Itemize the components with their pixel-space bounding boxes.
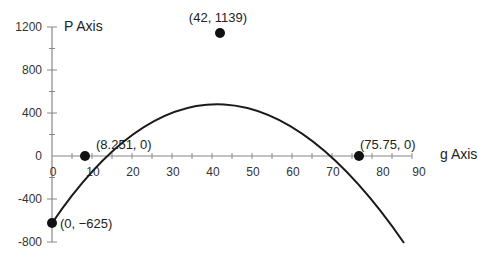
svg-text:20: 20 bbox=[126, 165, 140, 179]
svg-text:0: 0 bbox=[35, 149, 42, 163]
point-root-2 bbox=[354, 151, 364, 161]
x-tick-labels: 0 10 20 30 40 50 60 70 80 90 bbox=[50, 165, 426, 179]
x-axis-title: g Axis bbox=[440, 146, 477, 162]
svg-text:50: 50 bbox=[246, 165, 260, 179]
svg-text:800: 800 bbox=[22, 63, 42, 77]
svg-text:40: 40 bbox=[206, 165, 220, 179]
point-root-1 bbox=[80, 151, 90, 161]
y-tick-labels: 1200 800 400 0 -400 -800 bbox=[15, 20, 42, 249]
point-vertex bbox=[215, 28, 225, 38]
svg-text:30: 30 bbox=[166, 165, 180, 179]
label-root-1: (8.251, 0) bbox=[96, 137, 152, 152]
svg-text:80: 80 bbox=[376, 165, 390, 179]
svg-text:60: 60 bbox=[286, 165, 300, 179]
svg-text:70: 70 bbox=[326, 165, 340, 179]
svg-text:-800: -800 bbox=[18, 235, 42, 249]
svg-text:0: 0 bbox=[50, 165, 57, 179]
y-axis-title: P Axis bbox=[64, 18, 103, 34]
svg-text:-400: -400 bbox=[18, 192, 42, 206]
point-y-intercept bbox=[47, 218, 57, 228]
label-root-2: (75.75, 0) bbox=[360, 137, 416, 152]
chart: 1200 800 400 0 -400 -800 0 10 20 30 40 5… bbox=[0, 0, 492, 262]
label-y-intercept: (0, −625) bbox=[60, 216, 112, 231]
svg-text:90: 90 bbox=[412, 165, 426, 179]
label-vertex: (42, 1139) bbox=[189, 10, 247, 25]
svg-text:1200: 1200 bbox=[15, 20, 42, 34]
svg-text:400: 400 bbox=[22, 106, 42, 120]
